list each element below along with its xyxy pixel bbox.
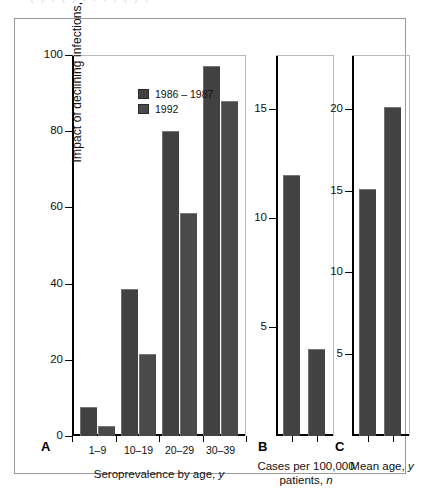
y-tick-label: 40 bbox=[50, 278, 63, 290]
bar bbox=[121, 289, 138, 436]
bar bbox=[98, 426, 115, 436]
panel-c-x-axis-title: Mean age, y bbox=[345, 459, 419, 473]
y-tick-mark bbox=[269, 218, 276, 219]
legend-swatch-1992 bbox=[138, 104, 149, 114]
y-tick-label: 100 bbox=[44, 49, 63, 61]
legend: 1986 – 1987 1992 bbox=[138, 88, 213, 118]
x-tick-mark bbox=[159, 436, 160, 442]
panel-a-x-axis-title-text: Seroprevalence by age, bbox=[94, 468, 219, 480]
panel-letter-a: A bbox=[41, 439, 50, 454]
cropped-caption-text: ( ) , ( ) , . . , ( ) , bbox=[30, 0, 150, 3]
x-tick-label: 20–29 bbox=[165, 445, 194, 456]
bar bbox=[384, 107, 401, 436]
y-tick-label: 5 bbox=[261, 321, 267, 333]
legend-label-1986-1987: 1986 – 1987 bbox=[155, 88, 213, 100]
x-tick-mark bbox=[72, 436, 73, 442]
y-tick-mark bbox=[269, 109, 276, 110]
panel-c-x-axis-title-text: Mean age, bbox=[350, 460, 408, 472]
legend-swatch-1986-1987 bbox=[138, 89, 149, 99]
y-tick-mark bbox=[65, 360, 72, 361]
legend-label-1992: 1992 bbox=[155, 103, 178, 115]
panel-b-x-axis-title-line2: patients, bbox=[279, 474, 326, 486]
bar bbox=[162, 131, 179, 436]
panel-b-x-axis-title-italic: n bbox=[326, 474, 332, 486]
panel-letter-b: B bbox=[258, 439, 267, 454]
y-tick-mark bbox=[65, 55, 72, 56]
y-tick-mark bbox=[345, 272, 352, 273]
x-tick-mark bbox=[393, 436, 394, 442]
y-tick-mark bbox=[65, 131, 72, 132]
y-tick-label: 80 bbox=[50, 125, 63, 137]
bar bbox=[180, 213, 197, 436]
x-tick-mark bbox=[317, 436, 318, 442]
bar bbox=[283, 175, 300, 436]
panel-c-plot: 5101520 bbox=[352, 55, 410, 436]
y-tick-mark bbox=[65, 207, 72, 208]
y-tick-mark bbox=[345, 109, 352, 110]
y-tick-label: 5 bbox=[337, 348, 343, 360]
panel-b-x-axis-title-line1: Cases per 100,000 bbox=[257, 460, 354, 472]
legend-item: 1992 bbox=[138, 103, 213, 115]
y-tick-mark bbox=[65, 284, 72, 285]
panel-letter-c: C bbox=[335, 439, 344, 454]
x-tick-mark bbox=[116, 436, 117, 442]
top-cropped-caption: ( ) , ( ) , . . , ( ) , bbox=[0, 0, 421, 16]
x-tick-mark bbox=[246, 436, 247, 442]
y-tick-label: 10 bbox=[254, 213, 267, 225]
x-tick-mark bbox=[368, 436, 369, 442]
figure-container: ( ) , ( ) , . . , ( ) , Impact of declin… bbox=[0, 0, 421, 490]
y-tick-label: 15 bbox=[254, 104, 267, 116]
panel-a-x-axis-title: Seroprevalence by age, y bbox=[72, 467, 246, 481]
panel-a-x-axis-title-italic: y bbox=[218, 468, 224, 480]
x-tick-mark bbox=[292, 436, 293, 442]
x-tick-label: 30–39 bbox=[206, 445, 235, 456]
y-tick-label: 20 bbox=[330, 103, 343, 115]
bar bbox=[139, 354, 156, 436]
y-tick-label: 10 bbox=[330, 267, 343, 279]
bar bbox=[221, 101, 238, 436]
legend-item: 1986 – 1987 bbox=[138, 88, 213, 100]
panel-b-plot: 51015 bbox=[276, 55, 334, 436]
y-tick-mark bbox=[65, 436, 72, 437]
y-tick-mark bbox=[269, 327, 276, 328]
panel-b-x-axis-title: Cases per 100,000 patients, n bbox=[253, 459, 359, 488]
y-tick-label: 0 bbox=[57, 430, 63, 442]
y-tick-label: 15 bbox=[330, 185, 343, 197]
bar bbox=[80, 407, 97, 436]
bar bbox=[359, 189, 376, 436]
panel-c-x-axis-title-italic: y bbox=[408, 460, 414, 472]
bar bbox=[203, 66, 220, 436]
bar bbox=[308, 349, 325, 436]
y-tick-label: 60 bbox=[50, 202, 63, 214]
x-tick-label: 1–9 bbox=[89, 445, 107, 456]
panel-a-plot: Impact of declining infections, % 020406… bbox=[72, 55, 246, 436]
panel-a-y-axis-title: Impact of declining infections, % bbox=[70, 0, 84, 175]
y-tick-mark bbox=[345, 191, 352, 192]
figure-frame: Impact of declining infections, % 020406… bbox=[14, 18, 406, 474]
y-tick-mark bbox=[345, 354, 352, 355]
x-tick-mark bbox=[203, 436, 204, 442]
y-tick-label: 20 bbox=[50, 354, 63, 366]
x-tick-label: 10–19 bbox=[124, 445, 153, 456]
